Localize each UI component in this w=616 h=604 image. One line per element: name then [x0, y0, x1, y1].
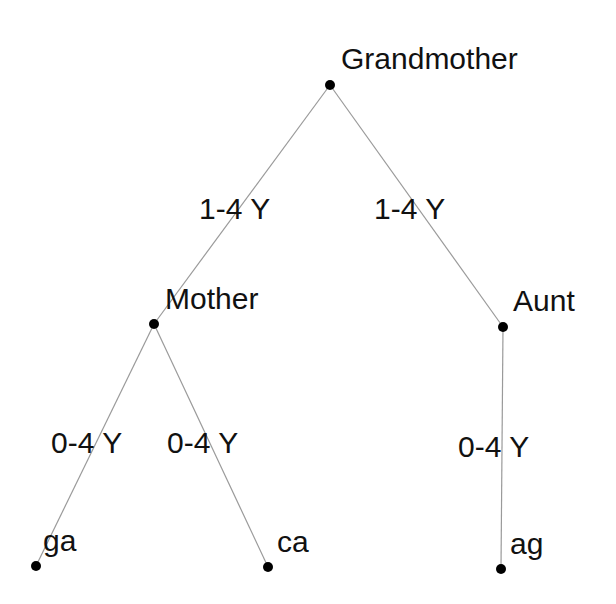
node-label-mother: Mother [165, 284, 258, 314]
node-dot-aunt [498, 322, 508, 332]
edge-label-mother-ga: 0-4 Y [51, 428, 122, 458]
node-dot-ca [263, 562, 273, 572]
node-dot-mother [149, 319, 159, 329]
node-label-aunt: Aunt [513, 286, 575, 316]
node-label-grandmother: Grandmother [341, 44, 518, 74]
family-tree-diagram: Grandmother Mother Aunt ga ca ag 1-4 Y 1… [0, 0, 616, 604]
edge-label-grandmother-aunt: 1-4 Y [374, 194, 445, 224]
node-dot-ga [31, 561, 41, 571]
edge-label-aunt-ag: 0-4 Y [458, 432, 529, 462]
node-label-ga: ga [43, 526, 76, 556]
node-label-ca: ca [277, 527, 309, 557]
edge-label-mother-ca: 0-4 Y [167, 428, 238, 458]
node-dot-grandmother [325, 80, 335, 90]
node-label-ag: ag [510, 529, 543, 559]
node-dot-ag [496, 564, 506, 574]
edge-label-grandmother-mother: 1-4 Y [199, 194, 270, 224]
